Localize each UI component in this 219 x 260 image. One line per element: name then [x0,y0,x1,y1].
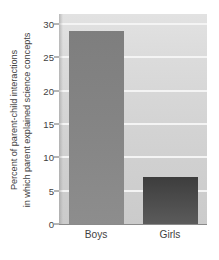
y-axis-tick-mark [54,57,59,58]
y-axis-tick-label: 15 [43,119,54,130]
x-axis-line [59,224,207,225]
y-axis-tick-mark [54,190,59,191]
y-axis-title-line-2: in which parent explained science concep… [20,33,33,208]
y-axis-tick-label: 25 [43,52,54,63]
bar-girls [143,177,198,224]
y-axis-tick-mark [54,24,59,25]
y-axis-tick-label: 10 [43,152,54,163]
x-axis-label-boys: Boys [85,229,108,240]
y-axis-title-text: Percent of parent-child interactions in … [8,33,33,208]
y-axis-tick-label: 30 [43,19,54,30]
y-axis-tick-mark [54,90,59,91]
y-axis-tick-labels: 051015202530 [34,0,54,260]
gridline [59,23,207,25]
bar-boys [69,31,124,224]
y-axis-tick-label: 20 [43,85,54,96]
y-axis-tick-mark [54,157,59,158]
bar-chart-figure: Percent of parent-child interactions in … [0,0,219,260]
y-axis-title-line-1: Percent of parent-child interactions [8,33,21,208]
x-axis-category-labels: BoysGirls [59,229,207,247]
y-axis-tick-mark [54,224,59,225]
plot-area [59,14,207,224]
y-axis-tick-mark [54,124,59,125]
x-axis-label-girls: Girls [160,229,181,240]
